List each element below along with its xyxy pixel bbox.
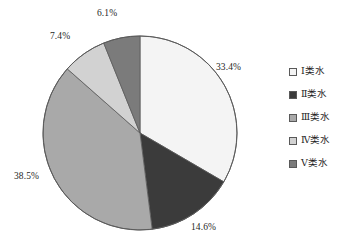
legend-label-3: Ⅲ类水 [301,113,330,123]
pie-data-label-3: 38.5% [14,171,39,181]
legend-item-1[interactable]: Ⅰ类水 [289,60,353,83]
pie-slice-group [43,36,237,230]
legend-label-4: Ⅳ类水 [301,136,331,146]
pie-data-label-4: 7.4% [50,31,70,41]
legend-swatch-icon-4 [289,137,297,145]
legend-label-2: Ⅱ类水 [301,90,327,100]
pie-svg [0,0,250,244]
legend-item-5[interactable]: Ⅴ类水 [289,152,353,175]
legend-swatch-icon-3 [289,114,297,122]
pie-data-label-2: 14.6% [191,222,216,232]
pie-data-label-5: 6.1% [97,8,117,18]
legend-label-5: Ⅴ类水 [301,159,328,169]
legend-item-3[interactable]: Ⅲ类水 [289,106,353,129]
legend-item-4[interactable]: Ⅳ类水 [289,129,353,152]
legend-item-2[interactable]: Ⅱ类水 [289,83,353,106]
pie-data-label-1: 33.4% [216,62,241,72]
legend-swatch-icon-2 [289,91,297,99]
pie-chart-figure: 33.4% 14.6% 38.5% 7.4% 6.1% Ⅰ类水 Ⅱ类水 Ⅲ类水 … [0,0,353,244]
legend-swatch-icon-1 [289,68,297,76]
chart-legend: Ⅰ类水 Ⅱ类水 Ⅲ类水 Ⅳ类水 Ⅴ类水 [289,60,353,175]
pie-plot-area: 33.4% 14.6% 38.5% 7.4% 6.1% [0,0,250,244]
legend-swatch-icon-5 [289,160,297,168]
legend-label-1: Ⅰ类水 [301,67,325,77]
